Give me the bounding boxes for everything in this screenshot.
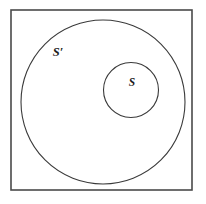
inner-set-circle — [104, 63, 159, 118]
universal-set-rectangle — [11, 10, 192, 190]
outer-set-label: S′ — [53, 45, 63, 59]
set-diagram-figure: S′ S — [0, 0, 206, 204]
diagram-canvas: S′ S — [0, 0, 206, 204]
outer-set-circle — [21, 20, 185, 184]
inner-set-label: S — [129, 76, 135, 88]
